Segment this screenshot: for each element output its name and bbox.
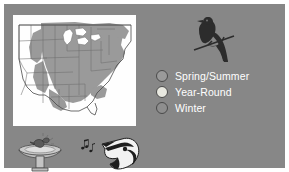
range-map	[13, 15, 136, 126]
legend: Spring/Summer Year-Round Winter	[156, 68, 281, 116]
bird-silhouette-svg	[190, 10, 238, 65]
bird-eye	[206, 20, 208, 22]
bird-head	[102, 138, 139, 169]
legend-item-year-round[interactable]: Year-Round	[156, 84, 281, 100]
map-layers	[19, 22, 131, 115]
music-notes	[81, 139, 95, 152]
birdbath-svg	[16, 132, 64, 172]
birdbath-icon	[16, 132, 64, 172]
us-map-svg	[13, 15, 136, 126]
legend-label-year-round: Year-Round	[175, 87, 232, 98]
legend-item-spring-summer[interactable]: Spring/Summer	[156, 68, 281, 84]
legend-item-winter[interactable]: Winter	[156, 100, 281, 116]
legend-swatch-winter	[156, 102, 168, 114]
legend-swatch-year-round	[156, 86, 168, 98]
perched-bird-silhouette-icon	[190, 10, 238, 65]
legend-label-winter: Winter	[175, 103, 206, 114]
branch	[194, 36, 234, 50]
birdbath-pedestal	[32, 156, 48, 171]
legend-swatch-spring-summer	[156, 70, 168, 82]
figure-panel: Spring/Summer Year-Round Winter	[4, 4, 285, 168]
singing-bird-icon	[80, 130, 142, 172]
legend-label-spring-summer: Spring/Summer	[175, 71, 249, 82]
infographic-root: Spring/Summer Year-Round Winter	[0, 0, 289, 172]
singing-bird-svg	[80, 130, 142, 172]
